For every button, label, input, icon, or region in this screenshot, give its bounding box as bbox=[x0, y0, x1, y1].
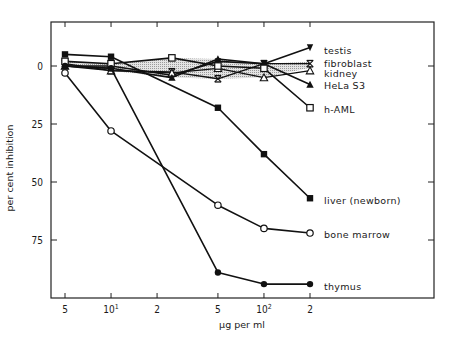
legend-label: bone marrow bbox=[324, 229, 390, 240]
open-square-marker bbox=[261, 65, 267, 71]
x-tick-label: 5 bbox=[62, 304, 68, 315]
filled-square-marker bbox=[307, 195, 313, 201]
legend-label: testis bbox=[324, 45, 352, 56]
y-tick-label: 75 bbox=[32, 235, 43, 246]
x-tick-label: 102 bbox=[256, 303, 271, 315]
filled-circle-marker bbox=[108, 65, 114, 71]
open-circle-marker bbox=[261, 225, 267, 231]
open-square-marker bbox=[307, 105, 313, 111]
legend-label: thymus bbox=[324, 281, 361, 292]
filled-square-marker bbox=[108, 54, 114, 60]
open-circle-marker bbox=[108, 128, 114, 134]
filled-square-marker bbox=[62, 51, 68, 57]
legend-label: HeLa S3 bbox=[324, 80, 365, 91]
series-line bbox=[65, 73, 310, 233]
y-tick-label: 0 bbox=[37, 61, 43, 72]
open-circle-marker bbox=[215, 202, 221, 208]
axis-labels: 51012510220255075 bbox=[32, 61, 313, 315]
filled-circle-marker bbox=[307, 281, 313, 287]
open-square-marker bbox=[169, 55, 175, 61]
filled-circle-marker bbox=[215, 269, 221, 275]
filled-circle-marker bbox=[62, 63, 68, 69]
open-circle-marker bbox=[307, 230, 313, 236]
open-square-marker bbox=[215, 63, 221, 69]
y-axis-title: per cent inhibition bbox=[4, 125, 15, 212]
x-tick-label: 101 bbox=[103, 303, 118, 315]
legend: testisfibroblastkidneyHeLa S3h-AMLliver … bbox=[324, 45, 401, 292]
series-line bbox=[65, 66, 310, 284]
filled-triangle-marker bbox=[306, 81, 313, 88]
x-axis-title: µg per ml bbox=[219, 319, 265, 330]
filled-square-marker bbox=[215, 105, 221, 111]
filled-square-marker bbox=[261, 151, 267, 157]
series-thymus bbox=[62, 63, 313, 287]
series-bone-marrow bbox=[62, 70, 313, 236]
filled-circle-marker bbox=[261, 281, 267, 287]
chart: 51012510220255075 testisfibroblastkidney… bbox=[0, 0, 450, 337]
x-tick-label: 2 bbox=[154, 304, 160, 315]
y-tick-label: 25 bbox=[32, 119, 43, 130]
legend-label: liver (newborn) bbox=[324, 195, 401, 206]
legend-label: h-AML bbox=[324, 104, 355, 115]
x-tick-label: 5 bbox=[215, 304, 221, 315]
y-tick-label: 50 bbox=[32, 177, 44, 188]
open-circle-marker bbox=[62, 70, 68, 76]
legend-label: kidney bbox=[324, 68, 358, 79]
x-tick-label: 2 bbox=[307, 304, 313, 315]
series-group bbox=[61, 44, 313, 287]
